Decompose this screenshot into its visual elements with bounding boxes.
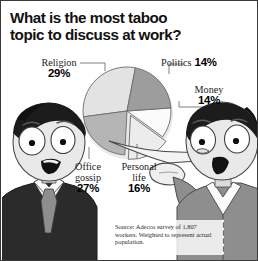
- pie-label-religion-pct: 29%: [48, 67, 70, 79]
- pie-label-religion: Religion 29%: [31, 57, 87, 79]
- pie-label-money-pct: 14%: [198, 94, 220, 106]
- right-pupil-right: [233, 138, 239, 144]
- right-pupil-left: [199, 139, 205, 145]
- pie-label-personal-life-pct: 16%: [128, 182, 150, 194]
- infographic-artwork: [1, 1, 258, 261]
- pie-label-office-gossip-name: Office: [64, 161, 112, 172]
- pie-label-politics: Politics14%: [161, 57, 233, 68]
- pie-label-office-gossip-pct: 27%: [77, 182, 99, 194]
- left-pupil-left: [29, 140, 35, 146]
- pie-label-politics-pct: 14%: [195, 56, 217, 68]
- left-pupil-right: [60, 139, 66, 145]
- source-note: Source: Adecco survey of 1,807 workers. …: [115, 223, 220, 246]
- pie-label-personal-life: Personal life 16%: [113, 161, 165, 195]
- pie-label-politics-name: Politics: [161, 57, 192, 68]
- pie-slice-office-gossip: [83, 111, 127, 155]
- pie-label-money: Money 14%: [185, 84, 233, 106]
- pie-label-office-gossip: Office gossip 27%: [64, 161, 112, 195]
- infographic-panel: What is the most taboo topic to discuss …: [0, 0, 258, 261]
- pie-label-personal-life-name: Personal: [113, 161, 165, 172]
